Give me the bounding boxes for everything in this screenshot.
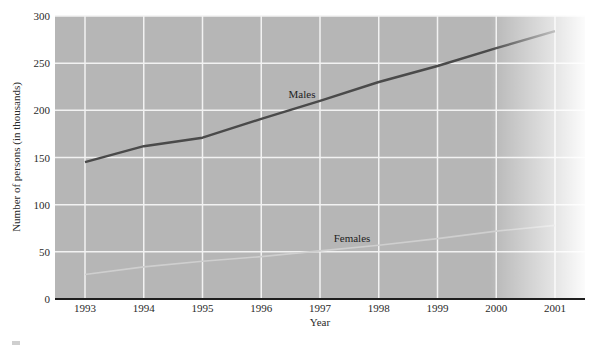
x-tick-label: 1998 (368, 302, 391, 314)
x-tick-label: 1997 (309, 302, 332, 314)
y-axis-title: Number of persons (in thousands) (10, 82, 23, 232)
y-axis-ticks: 050100150200250300 (34, 10, 51, 305)
fade-overlay (490, 14, 590, 300)
corner-mark (12, 341, 20, 345)
y-tick-label: 300 (34, 10, 51, 22)
x-tick-label: 1996 (250, 302, 273, 314)
females-label: Females (334, 232, 371, 244)
y-tick-label: 250 (34, 57, 51, 69)
y-tick-label: 100 (34, 199, 51, 211)
line-chart: 050100150200250300 199319941995199619971… (0, 0, 597, 345)
x-tick-label: 2000 (485, 302, 508, 314)
males-label: Males (289, 88, 316, 100)
x-tick-label: 2001 (544, 302, 566, 314)
y-tick-label: 150 (34, 152, 51, 164)
y-tick-label: 200 (34, 104, 51, 116)
x-tick-label: 1999 (427, 302, 450, 314)
x-axis-title: Year (310, 316, 331, 328)
x-tick-label: 1993 (74, 302, 97, 314)
y-tick-label: 50 (39, 246, 51, 258)
x-axis-ticks: 199319941995199619971998199920002001 (74, 302, 566, 314)
y-tick-label: 0 (45, 293, 51, 305)
x-tick-label: 1994 (133, 302, 156, 314)
x-tick-label: 1995 (192, 302, 215, 314)
